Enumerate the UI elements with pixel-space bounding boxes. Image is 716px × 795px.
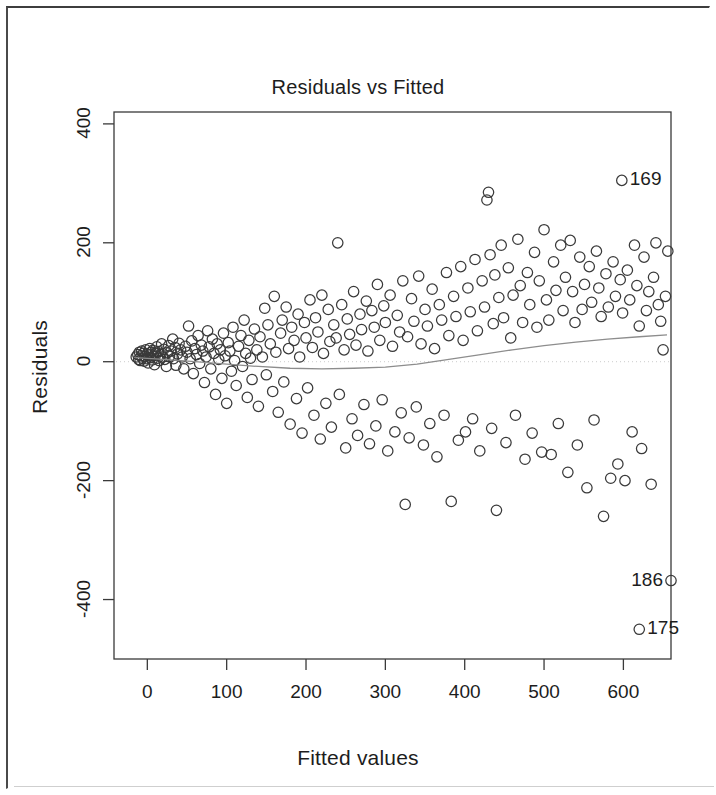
y-tick-label: 400 <box>73 93 95 153</box>
y-tick-label: -200 <box>73 450 95 510</box>
y-tick-label: -400 <box>73 569 95 629</box>
y-tick-label: 0 <box>73 331 95 391</box>
plot-canvas <box>0 0 716 795</box>
y-tick-label: 200 <box>73 212 95 272</box>
outlier-label: 175 <box>647 617 679 639</box>
residuals-vs-fitted-figure: Residuals vs Fitted Fitted values Residu… <box>0 0 716 795</box>
x-tick-label: 400 <box>435 681 495 703</box>
plot-frame <box>114 112 671 659</box>
x-tick-label: 0 <box>117 681 177 703</box>
x-tick-label: 200 <box>276 681 336 703</box>
outlier-label: 169 <box>630 168 662 190</box>
x-tick-label: 100 <box>197 681 257 703</box>
x-tick-label: 500 <box>514 681 574 703</box>
scatter-points <box>131 175 676 634</box>
x-tick-label: 300 <box>355 681 415 703</box>
x-tick-label: 600 <box>593 681 653 703</box>
tick-marks <box>103 124 623 670</box>
outlier-label: 186 <box>619 569 663 591</box>
